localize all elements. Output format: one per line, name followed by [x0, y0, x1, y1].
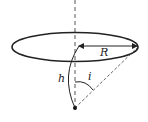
radius-label: R	[99, 46, 108, 59]
angle-label: i	[88, 70, 92, 83]
observer-point	[73, 106, 77, 110]
height-label: h	[58, 72, 65, 85]
height-curve	[68, 46, 79, 108]
ring-geometry-diagram: R h i	[0, 0, 148, 122]
